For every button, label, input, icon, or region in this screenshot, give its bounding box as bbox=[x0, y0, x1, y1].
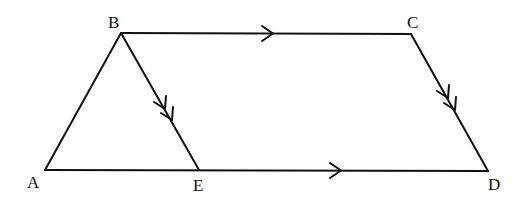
segment-BC bbox=[121, 33, 411, 34]
double-arrow-icon-be bbox=[154, 96, 173, 120]
segment-AD bbox=[45, 170, 488, 171]
diagram-canvas: A B C D E bbox=[0, 0, 519, 201]
segment-CD bbox=[411, 34, 488, 171]
point-label-e: E bbox=[193, 176, 203, 195]
point-label-a: A bbox=[27, 173, 40, 192]
parallelogram-diagram: A B C D E bbox=[0, 0, 519, 201]
point-label-d: D bbox=[488, 175, 500, 194]
segment-BE bbox=[121, 33, 199, 170]
point-label-c: C bbox=[407, 13, 418, 32]
point-label-b: B bbox=[108, 13, 119, 32]
double-arrow-icon-cd bbox=[437, 85, 456, 110]
segment-AB bbox=[45, 33, 121, 170]
